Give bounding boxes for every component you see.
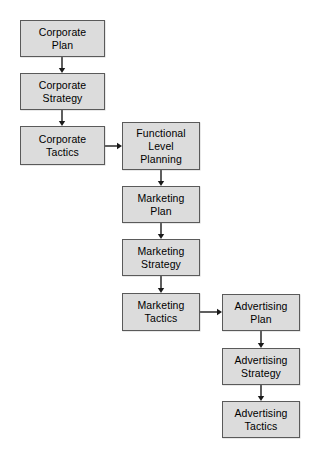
node-advertising-strategy[interactable]: Advertising Strategy xyxy=(222,348,300,385)
node-label: Corporate Tactics xyxy=(39,133,87,159)
flow-arrow xyxy=(155,276,167,293)
node-marketing-plan[interactable]: Marketing Plan xyxy=(122,186,200,223)
node-corporate-tactics[interactable]: Corporate Tactics xyxy=(20,126,105,165)
flow-arrow xyxy=(255,331,267,348)
flow-arrow xyxy=(155,223,167,239)
node-label: Corporate Plan xyxy=(39,26,87,52)
flow-arrow xyxy=(200,306,222,318)
node-corporate-plan[interactable]: Corporate Plan xyxy=(20,20,105,57)
node-label: Marketing Plan xyxy=(137,192,184,218)
flow-arrow xyxy=(105,140,122,152)
flow-arrow xyxy=(56,110,68,126)
node-label: Functional Level Planning xyxy=(136,127,185,166)
node-advertising-plan[interactable]: Advertising Plan xyxy=(222,294,300,331)
node-label: Advertising Strategy xyxy=(234,354,287,380)
node-marketing-tactics[interactable]: Marketing Tactics xyxy=(122,293,200,331)
node-functional-level-planning[interactable]: Functional Level Planning xyxy=(122,122,200,170)
node-label: Marketing Tactics xyxy=(137,299,184,325)
node-label: Corporate Strategy xyxy=(39,79,87,105)
node-label: Advertising Plan xyxy=(234,300,287,326)
flow-arrow xyxy=(56,57,68,73)
node-corporate-strategy[interactable]: Corporate Strategy xyxy=(20,73,105,110)
flowchart-canvas: Corporate PlanCorporate StrategyCorporat… xyxy=(0,0,319,459)
node-label: Marketing Strategy xyxy=(137,245,184,271)
node-label: Advertising Tactics xyxy=(234,407,287,433)
flow-arrow xyxy=(255,385,267,401)
flow-arrow xyxy=(155,170,167,186)
node-marketing-strategy[interactable]: Marketing Strategy xyxy=(122,239,200,276)
node-advertising-tactics[interactable]: Advertising Tactics xyxy=(222,401,300,438)
